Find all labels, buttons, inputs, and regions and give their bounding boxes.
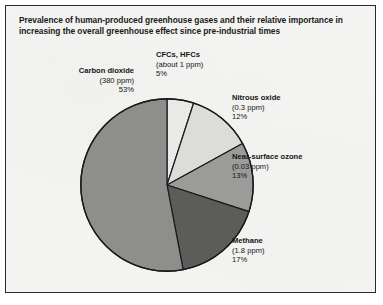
callout-carbon-dioxide-percent: 53% — [28, 85, 134, 95]
pie-slice-group — [81, 99, 253, 271]
callout-near-surface-ozone-percent: 13% — [232, 171, 354, 181]
callout-cfcs-hfcs: CFCs, HFCs (about 1 ppm) 5% — [156, 50, 264, 79]
greenhouse-gas-pie-figure: Prevalence of human-produced greenhouse … — [0, 0, 383, 305]
callout-methane-name: Methane — [232, 236, 342, 246]
callout-carbon-dioxide: Carbon dioxide (380 ppm) 53% — [28, 66, 134, 95]
callout-methane: Methane (1.8 ppm) 17% — [232, 236, 342, 265]
callout-carbon-dioxide-name: Carbon dioxide — [28, 66, 134, 76]
callout-carbon-dioxide-concentration: (380 ppm) — [28, 76, 134, 86]
callout-cfcs-hfcs-name: CFCs, HFCs — [156, 50, 264, 60]
callout-methane-concentration: (1.8 ppm) — [232, 246, 342, 256]
callout-methane-percent: 17% — [232, 255, 342, 265]
chart-title: Prevalence of human-produced greenhouse … — [19, 15, 371, 37]
callout-nitrous-oxide-name: Nitrous oxide — [232, 93, 344, 103]
callout-nitrous-oxide-concentration: (0.3 ppm) — [232, 103, 344, 113]
callout-nitrous-oxide-percent: 12% — [232, 112, 344, 122]
figure-panel: Prevalence of human-produced greenhouse … — [5, 5, 376, 293]
callout-near-surface-ozone-name: Near-surface ozone — [232, 152, 354, 162]
callout-cfcs-hfcs-percent: 5% — [156, 69, 264, 79]
callout-near-surface-ozone-concentration: (0.03 ppm) — [232, 162, 354, 172]
callout-nitrous-oxide: Nitrous oxide (0.3 ppm) 12% — [232, 93, 344, 122]
callout-cfcs-hfcs-concentration: (about 1 ppm) — [156, 60, 264, 70]
callout-near-surface-ozone: Near-surface ozone (0.03 ppm) 13% — [232, 152, 354, 181]
